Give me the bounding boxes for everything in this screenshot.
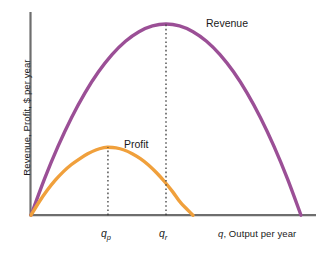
- revenue-curve-label: Revenue: [206, 17, 248, 29]
- x-tick-label-qp: qp: [101, 227, 111, 239]
- x-tick-label-qr: qr: [159, 227, 167, 239]
- y-axis-label: Revenue, Profit, $ per year: [21, 38, 32, 198]
- chart-plot-area: [0, 0, 326, 253]
- revenue-curve: [31, 24, 301, 215]
- x-axis-label-rest: , Output per year: [223, 228, 296, 239]
- revenue-profit-chart: Revenue, Profit, $ per year q, Output pe…: [0, 0, 326, 253]
- x-axis-label: q, Output per year: [218, 228, 296, 239]
- profit-curve-label: Profit: [124, 138, 149, 150]
- profit-curve: [31, 147, 193, 215]
